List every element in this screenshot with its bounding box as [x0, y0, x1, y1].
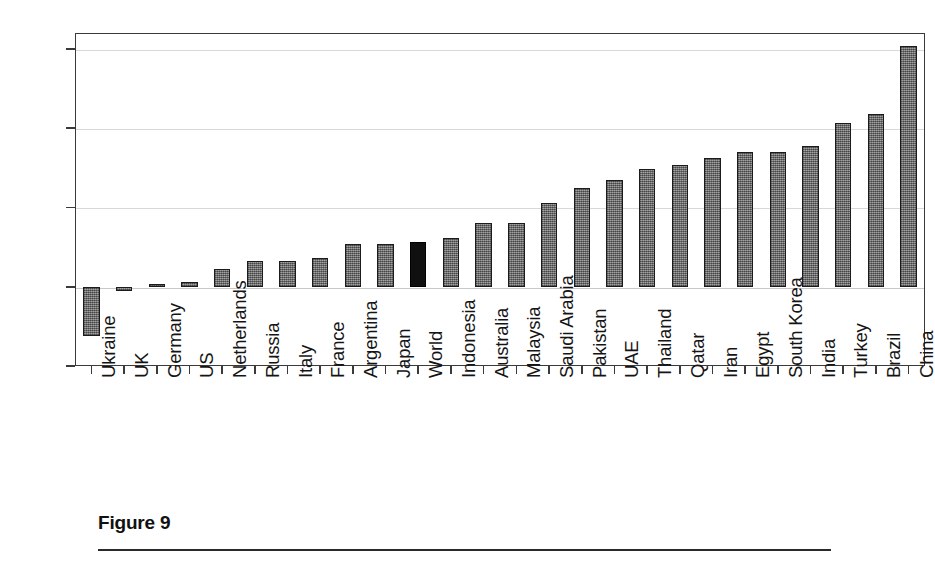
- x-tick-label: Germany: [164, 303, 186, 378]
- bar: [116, 287, 132, 292]
- bar: [181, 282, 197, 287]
- bar: [149, 284, 165, 287]
- x-tick-label: India: [818, 339, 840, 378]
- x-tick-mark: [842, 366, 844, 374]
- caption-divider: [98, 549, 831, 551]
- bar: [377, 244, 393, 287]
- figure-9-container: 15%10%5%0%−5% UkraineUKGermanyUSNetherla…: [0, 0, 935, 568]
- x-tick-label: UAE: [621, 341, 643, 378]
- x-tick-mark: [417, 366, 419, 374]
- x-tick-label: Ukraine: [98, 316, 120, 378]
- x-tick-label: China: [916, 331, 935, 378]
- bar: [639, 169, 655, 286]
- bar: [770, 152, 786, 287]
- x-tick-label: South Korea: [785, 277, 807, 378]
- x-tick-mark: [744, 366, 746, 374]
- x-tick-mark: [516, 366, 518, 374]
- x-tick-mark: [287, 366, 289, 374]
- x-tick-mark: [319, 366, 321, 374]
- x-tick-label: Russia: [262, 323, 284, 378]
- x-tick-label: Thailand: [654, 309, 676, 378]
- x-tick-mark: [189, 366, 191, 374]
- y-tick-mark: [66, 286, 75, 288]
- x-tick-mark: [908, 366, 910, 374]
- x-tick-label: Japan: [393, 329, 415, 378]
- bar: [443, 238, 459, 287]
- x-tick-label: France: [327, 322, 349, 378]
- x-tick-label: World: [425, 331, 447, 378]
- x-tick-label: UK: [131, 353, 153, 378]
- x-tick-label: Iran: [720, 347, 742, 378]
- x-tick-mark: [483, 366, 485, 374]
- x-tick-mark: [875, 366, 877, 374]
- bar: [574, 188, 590, 286]
- bar: [868, 114, 884, 287]
- bar: [541, 203, 557, 287]
- x-tick-label: Netherlands: [229, 280, 251, 378]
- bar: [508, 223, 524, 286]
- x-tick-mark: [712, 366, 714, 374]
- x-tick-label: Australia: [491, 308, 513, 378]
- x-tick-mark: [221, 366, 223, 374]
- bar: [475, 223, 491, 286]
- bar: [900, 46, 916, 287]
- bar: [410, 242, 426, 286]
- y-tick-mark: [66, 207, 75, 209]
- bar: [312, 258, 328, 287]
- x-tick-label: Qatar: [687, 333, 709, 378]
- x-tick-label: Indonesia: [458, 300, 480, 378]
- x-tick-mark: [581, 366, 583, 374]
- x-tick-label: US: [196, 353, 218, 378]
- bar: [279, 261, 295, 286]
- y-tick-mark: [66, 365, 75, 367]
- bar: [704, 158, 720, 286]
- x-tick-label: Argentina: [360, 301, 382, 378]
- bar: [214, 269, 230, 286]
- x-tick-mark: [810, 366, 812, 374]
- x-tick-mark: [646, 366, 648, 374]
- y-tick-mark: [66, 48, 75, 50]
- bar: [345, 244, 361, 287]
- x-tick-label: Egypt: [752, 332, 774, 378]
- figure-caption: Figure 9: [98, 512, 170, 534]
- bar: [737, 152, 753, 287]
- x-tick-mark: [385, 366, 387, 374]
- x-tick-mark: [91, 366, 93, 374]
- x-tick-mark: [450, 366, 452, 374]
- y-tick-mark: [66, 127, 75, 129]
- bar: [606, 180, 622, 286]
- x-tick-mark: [777, 366, 779, 374]
- x-tick-mark: [679, 366, 681, 374]
- x-tick-mark: [614, 366, 616, 374]
- bar: [672, 165, 688, 287]
- x-tick-label: Pakistan: [589, 309, 611, 378]
- x-tick-mark: [254, 366, 256, 374]
- x-tick-label: Brazil: [883, 333, 905, 378]
- x-tick-mark: [156, 366, 158, 374]
- x-tick-mark: [123, 366, 125, 374]
- bar: [835, 123, 851, 286]
- x-tick-label: Italy: [295, 345, 317, 378]
- x-tick-label: Saudi Arabia: [556, 275, 578, 378]
- x-tick-mark: [548, 366, 550, 374]
- figure-caption-title: Figure 9: [98, 512, 170, 534]
- x-tick-mark: [352, 366, 354, 374]
- x-tick-label: Malaysia: [523, 307, 545, 378]
- bar: [802, 146, 818, 287]
- x-tick-label: Turkey: [850, 323, 872, 378]
